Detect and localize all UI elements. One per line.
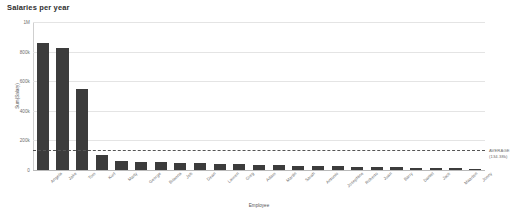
x-axis-tick-label[interactable]: Sarah: [304, 171, 316, 183]
average-reference-label: AVERAGE(134.38k): [489, 148, 510, 159]
x-axis-tick-label[interactable]: Jake: [68, 171, 78, 181]
chart-title: Salaries per year: [7, 3, 70, 12]
x-axis-tick-label[interactable]: Dean: [206, 171, 217, 182]
x-axis-tick-label[interactable]: Jeb: [185, 171, 194, 179]
x-axis-tick-label[interactable]: Greg: [245, 171, 256, 181]
x-axis-tick-label[interactable]: Adam: [265, 171, 277, 182]
bar[interactable]: [332, 166, 344, 170]
bar[interactable]: [273, 165, 285, 170]
x-axis-tick-label[interactable]: Jack: [441, 171, 451, 181]
bar[interactable]: [410, 168, 422, 170]
bar[interactable]: [371, 167, 383, 170]
bar[interactable]: [469, 169, 481, 170]
x-axis-tick-label[interactable]: George: [148, 171, 162, 185]
x-axis-tick-labels: AngelaJakeTomKurtMartyGeorgeBriannaJebDe…: [33, 171, 485, 201]
x-axis-title: Employee: [33, 203, 485, 208]
x-axis-tick-label[interactable]: Antonio: [325, 171, 339, 185]
x-axis-tick-label[interactable]: Angela: [49, 171, 63, 184]
x-axis-tick-label[interactable]: Juan: [382, 171, 392, 181]
y-axis-tick-label: 200k: [20, 138, 30, 143]
y-axis-title-container: Sum(Salary): [11, 22, 21, 170]
x-axis-tick-label[interactable]: Roberto: [364, 171, 379, 185]
average-label-value: (134.38k): [489, 154, 510, 159]
y-axis-title: Sum(Salary): [15, 83, 20, 109]
average-reference-line: [33, 150, 485, 151]
bar[interactable]: [233, 164, 245, 170]
y-axis-tick-label: 800k: [20, 49, 30, 54]
x-axis-tick-label[interactable]: Josephine: [346, 171, 364, 188]
x-axis-tick-label[interactable]: Tom: [87, 171, 96, 180]
x-axis-tick-label[interactable]: Brianna: [168, 171, 183, 185]
bar[interactable]: [390, 167, 402, 170]
bar[interactable]: [115, 161, 127, 170]
x-axis-tick-label[interactable]: Kurt: [107, 171, 116, 180]
bars-layer: [33, 22, 485, 170]
bar[interactable]: [253, 165, 265, 170]
bar[interactable]: [430, 168, 442, 170]
plot-area: 1M800k600k400k200k0: [33, 22, 485, 170]
bar[interactable]: [96, 155, 108, 170]
x-axis-tick-label[interactable]: Jonny: [481, 171, 493, 183]
bar[interactable]: [449, 168, 461, 170]
bar[interactable]: [214, 164, 226, 170]
y-axis-tick-label: 600k: [20, 79, 30, 84]
bar[interactable]: [135, 162, 147, 170]
bar[interactable]: [194, 163, 206, 170]
bar[interactable]: [155, 162, 167, 170]
y-axis-tick-label: 400k: [20, 108, 30, 113]
bar[interactable]: [351, 167, 363, 170]
y-axis-tick-label: 0: [27, 168, 30, 173]
bar[interactable]: [76, 89, 88, 170]
x-axis-tick-label[interactable]: Barry: [402, 171, 413, 182]
x-axis-tick-label[interactable]: Marty: [127, 171, 139, 182]
x-axis-tick-label[interactable]: Maarten: [463, 171, 478, 186]
bar[interactable]: [56, 48, 68, 170]
average-label-title: AVERAGE: [489, 148, 510, 153]
x-axis-tick-label[interactable]: Daniel: [422, 171, 435, 183]
x-axis-tick-label[interactable]: Martin: [285, 171, 297, 183]
y-axis-tick-label: 1M: [23, 20, 30, 25]
x-axis-tick-label[interactable]: Lauren: [226, 171, 240, 184]
bar-chart: Salaries per year Sum(Salary) 1M800k600k…: [0, 0, 525, 219]
bar[interactable]: [174, 163, 186, 170]
bar[interactable]: [292, 166, 304, 170]
bar[interactable]: [312, 166, 324, 170]
